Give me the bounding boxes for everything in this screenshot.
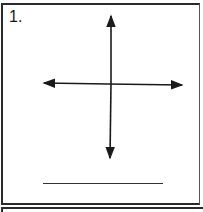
coordinate-axes-figure (0, 0, 203, 212)
x-axis-arrow (108, 84, 182, 85)
next-problem-box-edge (1, 207, 203, 212)
x-axis-arrow (44, 83, 108, 84)
y-axis-arrow (110, 84, 111, 158)
answer-line[interactable] (43, 183, 163, 184)
